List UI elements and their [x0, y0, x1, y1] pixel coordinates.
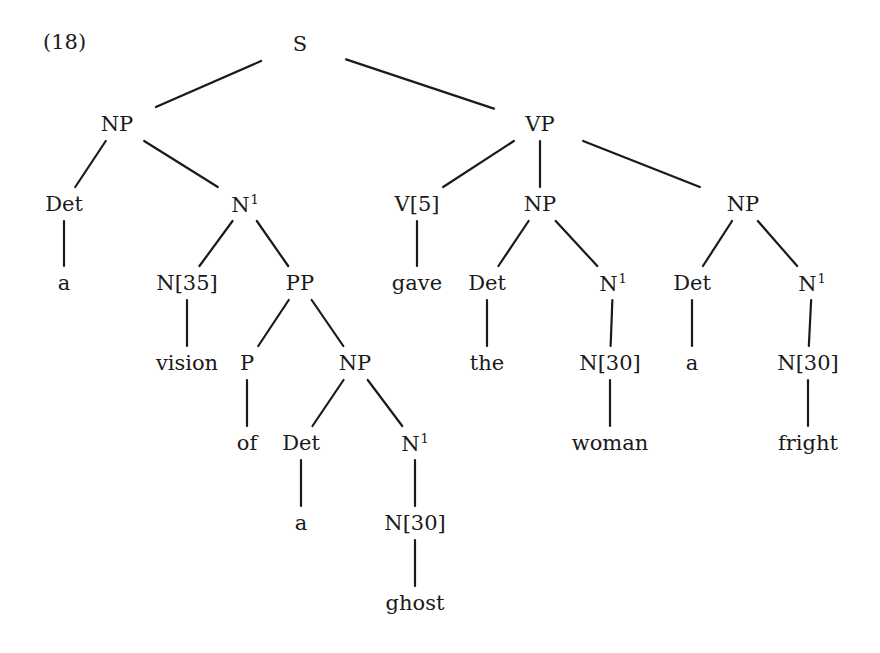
tree-node-the: the [470, 353, 504, 374]
tree-node-pp: PP [286, 273, 314, 294]
tree-node-n35: N[35] [156, 273, 217, 294]
node-label: N [231, 193, 249, 217]
tree-node-of: of [237, 433, 257, 454]
tree-node-n30b: N[30] [777, 353, 838, 374]
tree-edge [368, 380, 403, 426]
node-bar-level: 1 [251, 192, 259, 207]
tree-node-np4: NP [339, 353, 372, 374]
tree-node-a2: a [686, 353, 699, 374]
tree-node-det2: Det [468, 273, 506, 294]
node-label: gave [392, 271, 442, 295]
tree-edge [258, 300, 288, 346]
node-label: N[35] [156, 271, 217, 295]
tree-node-np1: NP [101, 114, 134, 135]
node-label: S [293, 32, 307, 56]
node-label: vision [156, 351, 218, 375]
tree-node-n30c: N[30] [384, 513, 445, 534]
node-bar-level: 1 [619, 271, 627, 286]
tree-node-nbar1: N1 [231, 193, 259, 216]
tree-edge [703, 221, 732, 266]
node-label: Det [468, 271, 506, 295]
tree-edge [312, 300, 344, 346]
tree-node-gave: gave [392, 273, 442, 294]
node-label: a [295, 511, 308, 535]
node-label: NP [524, 192, 557, 216]
tree-edge [257, 221, 288, 266]
node-label: the [470, 351, 504, 375]
node-label: N [401, 432, 419, 456]
tree-edge [556, 221, 598, 266]
node-label: V[5] [395, 192, 440, 216]
tree-node-det1: Det [45, 194, 83, 215]
node-label: N[30] [777, 351, 838, 375]
tree-node-nbar4: N1 [401, 432, 429, 455]
node-label: NP [339, 351, 372, 375]
tree-node-v5: V[5] [395, 194, 440, 215]
node-label: Det [673, 271, 711, 295]
node-label: Det [45, 192, 83, 216]
tree-edge [611, 300, 613, 346]
node-label: a [686, 351, 699, 375]
tree-node-woman: woman [572, 433, 649, 454]
tree-node-det3: Det [673, 273, 711, 294]
node-label: Det [282, 431, 320, 455]
tree-node-n30a: N[30] [579, 353, 640, 374]
tree-edge [498, 221, 528, 266]
tree-node-vision: vision [156, 353, 218, 374]
tree-node-np3: NP [727, 194, 760, 215]
node-label: NP [727, 192, 760, 216]
tree-node-ghost: ghost [386, 593, 445, 614]
node-label: VP [525, 112, 554, 136]
node-label: of [237, 431, 257, 455]
tree-edge [144, 141, 218, 187]
node-label: N [599, 272, 617, 296]
node-label: P [240, 351, 254, 375]
node-label: N [798, 272, 816, 296]
node-bar-level: 1 [818, 271, 826, 286]
node-bar-level: 1 [421, 431, 429, 446]
tree-edge [583, 141, 700, 187]
tree-node-vp: VP [525, 114, 554, 135]
node-label: NP [101, 112, 134, 136]
node-label: N[30] [384, 511, 445, 535]
tree-edge [809, 300, 811, 346]
tree-edge [312, 380, 343, 426]
tree-node-a3: a [295, 513, 308, 534]
tree-node-nbar2: N1 [599, 272, 627, 295]
tree-edge [75, 141, 105, 187]
node-label: fright [778, 431, 838, 455]
tree-node-np2: NP [524, 194, 557, 215]
tree-node-p: P [240, 353, 254, 374]
node-label: N[30] [579, 351, 640, 375]
tree-edges [0, 0, 880, 653]
node-label: woman [572, 431, 649, 455]
tree-node-s: S [293, 34, 307, 55]
tree-node-det4: Det [282, 433, 320, 454]
tree-node-nbar3: N1 [798, 272, 826, 295]
tree-node-fright: fright [778, 433, 838, 454]
node-label: ghost [386, 591, 445, 615]
tree-edge [758, 221, 797, 266]
tree-edge [443, 141, 514, 187]
node-label: a [58, 271, 71, 295]
tree-edge [346, 59, 494, 108]
tree-node-a1: a [58, 273, 71, 294]
tree-edge [156, 61, 261, 107]
tree-edge [199, 221, 232, 266]
node-label: PP [286, 271, 314, 295]
